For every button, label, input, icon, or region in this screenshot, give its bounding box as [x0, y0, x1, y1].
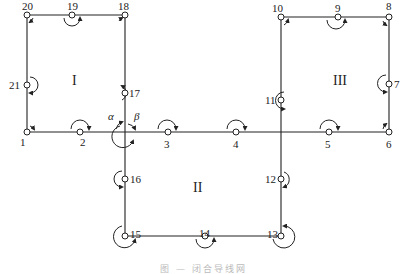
- label-11: 11: [265, 94, 276, 106]
- label-13: 13: [267, 228, 279, 240]
- angle-arcs: [30, 18, 386, 248]
- angle-beta-label: β: [133, 110, 140, 122]
- figure-caption: 图 — 闭合导线网: [0, 262, 407, 274]
- point-21: [24, 82, 30, 88]
- label-14: 14: [199, 227, 211, 239]
- label-9: 9: [335, 2, 341, 14]
- point-17: [122, 90, 128, 96]
- point-16: [122, 176, 128, 182]
- point-10: [278, 14, 284, 20]
- point-11: [278, 97, 284, 103]
- region-label-II: II: [193, 180, 203, 195]
- point-8: [386, 14, 392, 20]
- point-13: [278, 233, 284, 239]
- point-9: [335, 14, 341, 20]
- region-label-III: III: [333, 73, 347, 88]
- label-20: 20: [22, 0, 34, 12]
- label-3: 3: [164, 138, 170, 150]
- point-18: [122, 12, 128, 18]
- angle-alpha-label: α: [108, 110, 114, 122]
- point-19: [69, 12, 75, 18]
- point-2: [77, 129, 83, 135]
- traverse-diagram: 20 19 18 21 17 1 2 3 4 5 6 7 8 9 10 11 1…: [0, 0, 407, 274]
- point-20: [24, 12, 30, 18]
- label-12: 12: [265, 173, 276, 185]
- label-5: 5: [325, 138, 331, 150]
- label-17: 17: [129, 87, 141, 99]
- label-10: 10: [272, 2, 284, 14]
- label-15: 15: [130, 228, 142, 240]
- label-19: 19: [67, 0, 79, 12]
- point-1: [24, 129, 30, 135]
- label-6: 6: [386, 138, 392, 150]
- point-4: [233, 129, 239, 135]
- label-8: 8: [386, 0, 392, 12]
- label-2: 2: [80, 136, 86, 148]
- label-4: 4: [233, 138, 239, 150]
- point-6: [386, 129, 392, 135]
- point-7: [386, 81, 392, 87]
- label-16: 16: [130, 173, 142, 185]
- traverse-lines: [27, 15, 389, 236]
- region-label-I: I: [72, 73, 77, 88]
- point-12: [278, 176, 284, 182]
- point-5: [326, 129, 332, 135]
- label-18: 18: [118, 0, 130, 12]
- label-21: 21: [9, 79, 20, 91]
- point-3: [165, 129, 171, 135]
- point-15: [122, 233, 128, 239]
- point-labels: 20 19 18 21 17 1 2 3 4 5 6 7 8 9 10 11 1…: [9, 0, 400, 240]
- label-7: 7: [394, 78, 400, 90]
- label-1: 1: [20, 136, 26, 148]
